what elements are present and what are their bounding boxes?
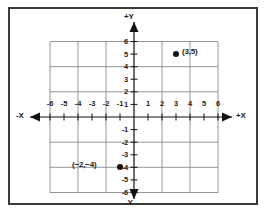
data-point-label-3-5: (3,5) [182, 48, 197, 56]
y-tick-label--3: -3 [110, 151, 128, 159]
y-tick-label-5: 5 [112, 51, 128, 59]
x-tick-label-1: 1 [141, 100, 155, 108]
y-axis-positive-arrow [130, 22, 139, 32]
y-tick-label--1: -1 [110, 126, 128, 134]
x-tick-label--2: -2 [99, 100, 113, 108]
x-negative-axis-label: -X [16, 112, 24, 120]
x-axis-negative-arrow [30, 113, 40, 122]
x-tick-label-6: 6 [211, 100, 225, 108]
x-tick-label-5: 5 [197, 100, 211, 108]
y-tick-label-2: 2 [112, 88, 128, 96]
y-tick-label--5: -5 [110, 176, 128, 184]
x-tick-label-2: 2 [155, 100, 169, 108]
y-tick-label--2: -2 [110, 139, 128, 147]
plot-canvas [0, 0, 269, 219]
axis-arrowheads [30, 22, 232, 199]
x-axis-positive-arrow [222, 113, 232, 122]
data-point-label--2--4: (−2,−4) [72, 161, 96, 169]
y-negative-axis-label: -Y [125, 199, 133, 207]
y-tick-label-6: 6 [112, 38, 128, 46]
x-tick-label--5: -5 [57, 100, 71, 108]
y-tick-label--6: -6 [110, 189, 128, 197]
y-positive-axis-label: +Y [124, 13, 134, 21]
x-tick-label-3: 3 [169, 100, 183, 108]
x-tick-label--4: -4 [71, 100, 85, 108]
coordinate-plane-figure: -6 -5 -4 -3 -2 -1 1 2 3 4 5 6 6 5 4 3 2 … [0, 0, 269, 219]
y-tick-label-1: 1 [112, 101, 128, 109]
x-tick-label-4: 4 [183, 100, 197, 108]
y-tick-label-3: 3 [112, 76, 128, 84]
y-tick-label-4: 4 [112, 63, 128, 71]
x-positive-axis-label: +X [236, 112, 246, 120]
axis-lines [30, 22, 232, 199]
x-tick-label--3: -3 [85, 100, 99, 108]
x-tick-label--6: -6 [43, 100, 57, 108]
